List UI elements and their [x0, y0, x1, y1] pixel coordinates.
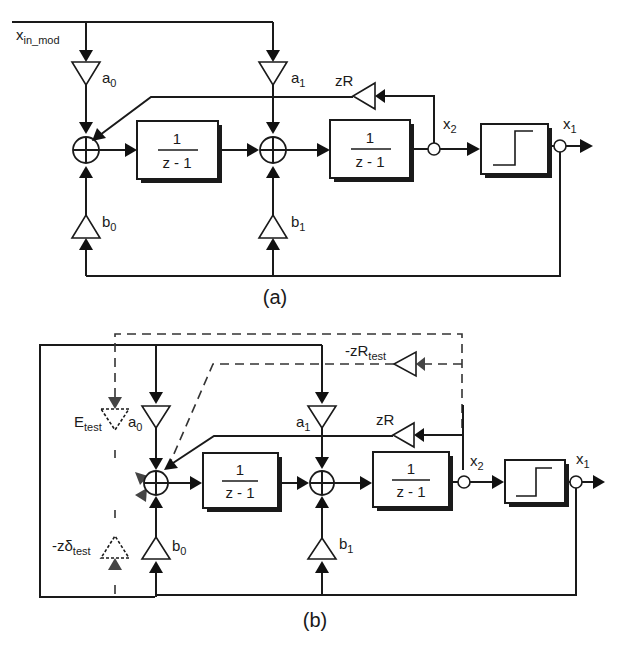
- gain-a0-label: a0: [128, 413, 142, 433]
- gain-zR: [393, 423, 414, 447]
- gain-a1: [259, 62, 287, 85]
- test-path-etest: [115, 334, 462, 436]
- gain-b0-label: b0: [172, 537, 186, 557]
- gain-b0: [72, 215, 100, 238]
- node-x1: [570, 476, 582, 488]
- caption-a: (a): [263, 286, 287, 308]
- output-arrow: [593, 475, 605, 489]
- gain-a0: [72, 62, 100, 85]
- integrator-1-num: 1: [236, 461, 244, 478]
- gain-zR-label: zR: [335, 72, 354, 89]
- gain-etest: [101, 409, 129, 430]
- gain-zR-label: zR: [376, 411, 395, 428]
- node-x1-label: x1: [576, 450, 590, 470]
- integrator-1-den: z - 1: [225, 484, 254, 501]
- gain-b0: [142, 537, 170, 559]
- diagram-canvas: xin_mod a0 b0 1 z - 1 a1: [0, 0, 626, 649]
- integrator-2-den: z - 1: [355, 153, 384, 170]
- test-path-zRtest: [170, 364, 394, 463]
- panel-a: xin_mod a0 b0 1 z - 1 a1: [12, 22, 593, 308]
- gain-zRtest: [394, 352, 416, 376]
- integrator-2-den: z - 1: [396, 483, 425, 500]
- node-x1: [554, 140, 566, 152]
- output-arrow: [580, 139, 593, 153]
- gain-b1-label: b1: [291, 213, 305, 233]
- node-x2: [428, 143, 440, 155]
- gain-b1-label: b1: [339, 535, 353, 555]
- panel-b: -zRtest Etest -zδtest a0 b0: [40, 334, 605, 631]
- gain-zdtest-label: -zδtest: [52, 537, 91, 557]
- gain-a1: [308, 406, 336, 428]
- gain-a1-label: a1: [296, 413, 310, 433]
- gain-a1-label: a1: [291, 69, 305, 89]
- gain-b0-label: b0: [102, 213, 116, 233]
- integrator-1-den: z - 1: [162, 154, 191, 171]
- node-x2-label: x2: [443, 115, 457, 135]
- node-x1-label: x1: [563, 115, 577, 135]
- integrator-1-num: 1: [173, 130, 181, 147]
- caption-b: (b): [303, 609, 327, 631]
- gain-zdtest: [101, 536, 129, 558]
- gain-a0: [142, 406, 170, 428]
- gain-zRtest-label: -zRtest: [345, 342, 386, 362]
- integrator-2-num: 1: [366, 129, 374, 146]
- gain-b1: [259, 215, 287, 238]
- gain-zR: [353, 83, 375, 109]
- gain-etest-label: Etest: [74, 413, 102, 433]
- input-label: xin_mod: [16, 26, 60, 46]
- node-x2-label: x2: [470, 452, 484, 472]
- gain-b1: [308, 538, 336, 559]
- node-x2: [458, 476, 470, 488]
- gain-a0-label: a0: [102, 69, 116, 89]
- arrow-head: [79, 50, 93, 62]
- integrator-2-num: 1: [407, 460, 415, 477]
